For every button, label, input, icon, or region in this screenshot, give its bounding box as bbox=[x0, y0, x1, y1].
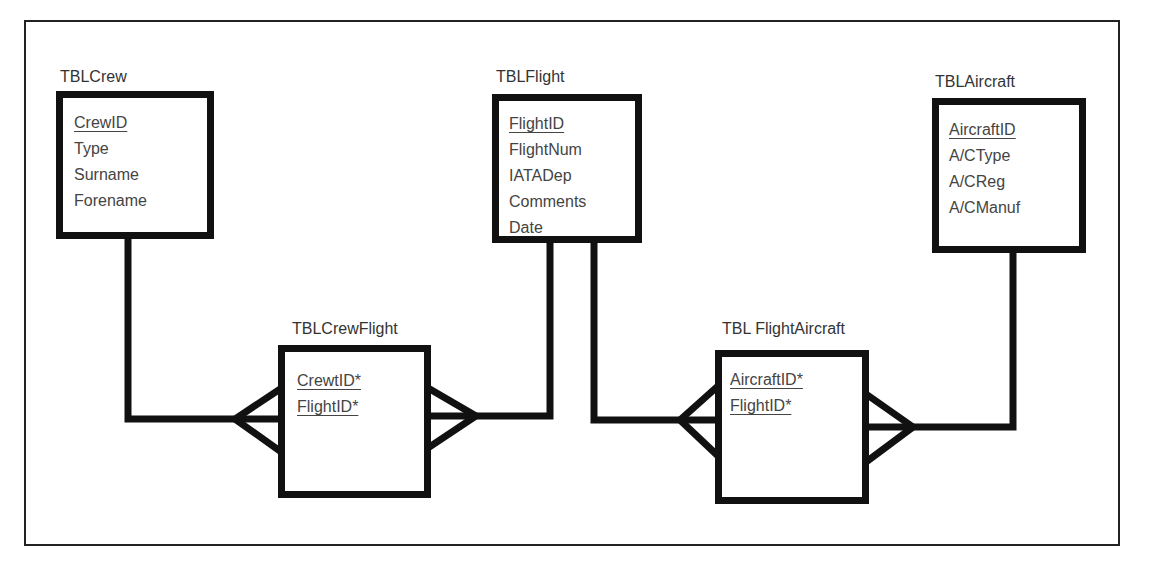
entity-box-crew[interactable]: CrewID Type Surname Forename bbox=[56, 91, 214, 239]
attribute: Date bbox=[509, 215, 586, 241]
entity-box-flightaircraft[interactable]: AircraftID* FlightID* bbox=[715, 350, 869, 504]
attribute: A/CType bbox=[949, 143, 1020, 169]
entity-title-aircraft: TBLAircraft bbox=[935, 73, 1015, 91]
attribute: A/CManuf bbox=[949, 195, 1020, 221]
entity-title-crewflight: TBLCrewFlight bbox=[292, 320, 398, 338]
attribute-primary-key: FlightID bbox=[509, 111, 586, 137]
entity-box-flight[interactable]: FlightID FlightNum IATADep Comments Date bbox=[492, 94, 642, 243]
attribute-list: AircraftID A/CType A/CReg A/CManuf bbox=[949, 117, 1020, 221]
attribute: Forename bbox=[74, 188, 147, 214]
attribute: Type bbox=[74, 136, 147, 162]
entity-title-flight: TBLFlight bbox=[496, 68, 564, 86]
relationship-line-aircraft-flightaircraft bbox=[866, 252, 1013, 427]
relationship-line-flight-crewflight bbox=[428, 242, 550, 416]
attribute-foreign-key: FlightID* bbox=[730, 393, 803, 419]
attribute-list: CrewtID* FlightID* bbox=[297, 368, 361, 420]
entity-box-aircraft[interactable]: AircraftID A/CType A/CReg A/CManuf bbox=[932, 98, 1086, 253]
attribute: Surname bbox=[74, 162, 147, 188]
attribute: FlightNum bbox=[509, 137, 586, 163]
attribute: A/CReg bbox=[949, 169, 1020, 195]
attribute-foreign-key: AircraftID* bbox=[730, 367, 803, 393]
attribute-primary-key: AircraftID bbox=[949, 117, 1020, 143]
attribute-list: CrewID Type Surname Forename bbox=[74, 110, 147, 214]
attribute-foreign-key: FlightID* bbox=[297, 394, 361, 420]
attribute-list: FlightID FlightNum IATADep Comments Date bbox=[509, 111, 586, 241]
attribute-list: AircraftID* FlightID* bbox=[730, 367, 803, 419]
entity-title-crew: TBLCrew bbox=[60, 68, 127, 86]
relationship-line-flight-flightaircraft bbox=[594, 242, 717, 420]
entity-title-flightaircraft: TBL FlightAircraft bbox=[722, 320, 845, 338]
attribute-foreign-key: CrewtID* bbox=[297, 368, 361, 394]
attribute: IATADep bbox=[509, 163, 586, 189]
attribute-primary-key: CrewID bbox=[74, 110, 147, 136]
attribute: Comments bbox=[509, 189, 586, 215]
relationship-line-crew-crewflight bbox=[128, 238, 280, 419]
entity-box-crewflight[interactable]: CrewtID* FlightID* bbox=[278, 345, 431, 498]
